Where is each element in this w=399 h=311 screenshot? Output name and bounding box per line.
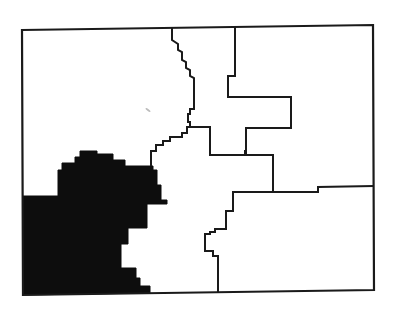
highlighted-region-west <box>23 151 167 295</box>
boundary-north-central-west <box>151 28 194 166</box>
boundary-northeast <box>228 27 291 192</box>
boundary-east-central <box>273 186 374 192</box>
boundary-central-top <box>189 127 245 155</box>
scan-artifact <box>145 107 151 112</box>
map-figure <box>0 0 399 311</box>
region-map <box>0 0 399 311</box>
boundary-south-west <box>205 192 273 292</box>
